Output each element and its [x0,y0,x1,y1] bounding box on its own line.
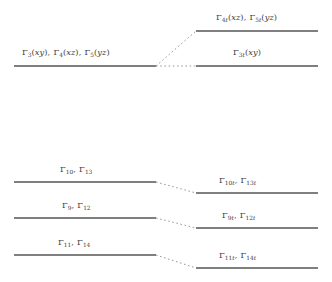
energy-level-diagram: Γ3(xy), Γ4(xz), Γ5(yz) Γ10, Γ13 Γ9, Γ12 … [0,0,332,282]
connector-10-13 [156,182,196,193]
level-label-left-9-12: Γ9, Γ12 [62,201,91,212]
level-label-right-10t-13t: Γ10t, Γ13t [219,176,256,187]
connector-9-12 [156,218,196,228]
left-level-group [14,66,156,255]
level-label-left-10-13: Γ10, Γ13 [60,165,92,176]
right-level-group [196,31,318,268]
level-label-right-9t-12t: Γ9t, Γ12t [222,211,255,222]
connector-upper-rise [156,31,196,66]
level-label-right-3t: Γ3t(xy) [233,48,261,59]
level-label-right-11t-14t: Γ11t, Γ14t [219,251,256,262]
diagram-canvas [0,0,332,282]
level-label-left-upper: Γ3(xy), Γ4(xz), Γ5(yz) [22,48,110,59]
level-label-left-11-14: Γ11, Γ14 [58,238,90,249]
connector-group [156,31,196,268]
connector-11-14 [156,255,196,268]
level-label-right-4t-5t: Γ4t(xz), Γ5t(yz) [216,13,277,24]
